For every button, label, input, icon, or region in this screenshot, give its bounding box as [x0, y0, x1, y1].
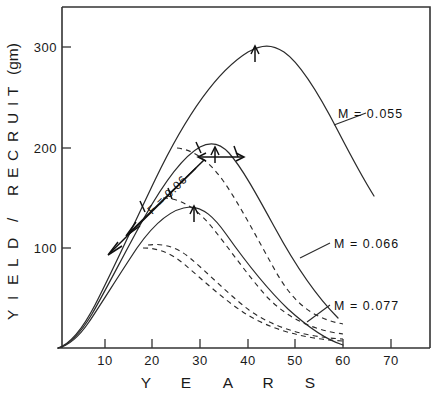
solid-curves [58, 46, 374, 348]
x-tick-20: 20 [144, 353, 159, 368]
peak-marker-m066 [211, 147, 219, 163]
figure-panel: 300 200 100 10 20 30 40 50 60 70 Y E [0, 0, 439, 397]
dashed-curve-m055 [177, 148, 343, 324]
x-tick-70: 70 [383, 353, 398, 368]
y-axis-title-char-10: U [4, 113, 21, 124]
peak-marker-m055 [251, 46, 259, 62]
f-annotation-label: F = 0.06 [144, 172, 189, 216]
y-axis-title-char-4: D [4, 238, 21, 249]
x-axis-title-char-3: R [262, 374, 273, 391]
y-tick-100: 100 [34, 241, 57, 256]
y-axis-title-char-6: R [4, 185, 21, 196]
y-tick-300: 300 [34, 40, 57, 55]
x-tick-60: 60 [335, 353, 350, 368]
y-axis-title: Y I E L D / R E C R U I T (gm) [4, 43, 21, 320]
series-label-m077: M = 0.077 [307, 299, 399, 322]
peak-markers [190, 46, 259, 222]
dashed-branches [143, 148, 343, 341]
x-axis-title-char-0: Y [141, 374, 151, 391]
y-axis-title-char-12: T [4, 86, 21, 96]
series-label-m066: M = 0.066 [300, 237, 399, 258]
series-label-m055-text: M = 0.055 [338, 107, 403, 121]
y-axis-title-units: (gm) [4, 43, 21, 75]
yield-per-recruit-chart: 300 200 100 10 20 30 40 50 60 70 Y E [0, 0, 439, 397]
y-axis-tick-labels: 300 200 100 [34, 40, 57, 256]
x-axis-title-char-1: E [181, 374, 191, 391]
curve-m055 [58, 46, 374, 348]
dashed-curve-m066 [163, 198, 343, 334]
x-axis-title: Y E A R S [141, 374, 315, 391]
series-label-m066-text: M = 0.066 [334, 237, 399, 251]
y-axis-title-char-8: C [4, 150, 21, 161]
x-tick-40: 40 [240, 353, 255, 368]
y-axis-title-char-2: E [4, 275, 21, 285]
plot-frame [58, 7, 430, 348]
x-tick-30: 30 [192, 353, 207, 368]
y-axis-title-separator: / [4, 217, 21, 222]
y-axis-ticks [62, 47, 71, 248]
y-axis-title-char-1: I [4, 296, 21, 300]
y-axis-title-char-9: R [4, 131, 21, 142]
x-axis-ticks [105, 339, 391, 348]
y-axis-title-char-0: Y [4, 310, 21, 320]
x-axis-title-char-2: A [223, 374, 234, 391]
x-tick-10: 10 [97, 353, 112, 368]
series-label-m077-text: M = 0.077 [334, 299, 399, 313]
dashed-curve-m077 [148, 245, 343, 339]
y-axis-title-char-3: L [4, 258, 21, 267]
curve-m066 [58, 144, 338, 348]
y-tick-200: 200 [34, 141, 57, 156]
y-axis-title-char-11: I [4, 102, 21, 106]
y-axis-title-char-7: E [4, 168, 21, 178]
series-label-m055: M = 0.055 [334, 107, 403, 125]
x-axis-tick-labels: 10 20 30 40 50 60 70 [97, 353, 398, 368]
x-tick-50: 50 [287, 353, 302, 368]
x-axis-title-char-4: S [305, 374, 315, 391]
